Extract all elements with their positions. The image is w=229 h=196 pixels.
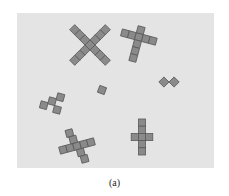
upright-cross	[131, 119, 153, 155]
single-tile	[97, 85, 106, 94]
figure-caption: (a)	[0, 177, 229, 188]
domino-diagonal	[159, 72, 179, 92]
tilted-cross-lower	[55, 124, 99, 168]
figure-shapes	[0, 0, 229, 196]
x-shape	[54, 9, 125, 80]
tilted-cross-upper	[115, 22, 159, 66]
zigzag-tiles	[39, 89, 65, 114]
